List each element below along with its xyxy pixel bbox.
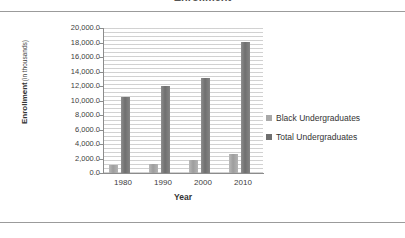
x-axis-tick-label: 1990: [143, 178, 183, 187]
x-axis-tick-labels: 1980199020002010: [103, 178, 263, 192]
y-axis-tick-label: 20,000.0: [36, 24, 100, 32]
y-axis-tick-label: 8,000.0: [36, 111, 100, 119]
bar-group: [143, 28, 183, 173]
y-axis-title: Enrollment (in thousands): [12, 36, 36, 128]
bar: [201, 78, 210, 173]
chart-legend: Black UndergraduatesTotal Undergraduates: [266, 108, 402, 146]
bar: [149, 164, 158, 173]
bar-group: [223, 28, 263, 173]
bar-groups: [103, 28, 263, 173]
legend-label: Black Undergraduates: [276, 113, 360, 123]
y-axis-tick-label: 12,000.0: [36, 82, 100, 90]
x-axis-tick-label: 1980: [103, 178, 143, 187]
legend-item[interactable]: Total Undergraduates: [266, 127, 402, 146]
clipped-chart-title: Enrollment: [0, 0, 405, 3]
y-axis-tick-labels: 20,000.018,000.016,000.014,000.012,000.0…: [36, 12, 100, 187]
y-axis-title-sub: (in thousands): [21, 40, 28, 81]
bar-chart: Enrollment (in thousands) 20,000.018,000…: [0, 12, 405, 222]
bar: [109, 165, 118, 173]
bar: [241, 42, 250, 173]
y-axis-tick-label: 18,000.0: [36, 39, 100, 47]
x-axis-tick-label: 2000: [183, 178, 223, 187]
bar: [229, 154, 238, 173]
x-axis-line: [103, 173, 264, 174]
page-rule-bottom: [0, 222, 405, 223]
legend-swatch-icon: [266, 134, 272, 140]
y-axis-tick-label: 16,000.0: [36, 53, 100, 61]
x-axis-tick-label: 2010: [223, 178, 263, 187]
y-axis-tick-label: 4,000.0: [36, 140, 100, 148]
y-axis-tick-label: 14,000.0: [36, 68, 100, 76]
bar: [121, 97, 130, 173]
y-axis-tick-label: 2,000.0: [36, 155, 100, 163]
chart-page: Enrollment Enrollment (in thousands) 20,…: [0, 0, 405, 238]
legend-swatch-icon: [266, 115, 272, 121]
legend-item[interactable]: Black Undergraduates: [266, 108, 402, 127]
x-axis-title: Year: [103, 192, 263, 202]
bar-group: [103, 28, 143, 173]
legend-label: Total Undergraduates: [276, 132, 357, 142]
y-axis-tick: [99, 173, 103, 174]
y-axis-tick-label: 10,000.0: [36, 97, 100, 105]
y-axis-tick-label: 0.0: [36, 169, 100, 177]
bar: [161, 86, 170, 173]
y-axis-tick-label: 6,000.0: [36, 126, 100, 134]
bar: [189, 160, 198, 173]
bar-group: [183, 28, 223, 173]
y-axis-title-main: Enrollment: [20, 82, 29, 124]
